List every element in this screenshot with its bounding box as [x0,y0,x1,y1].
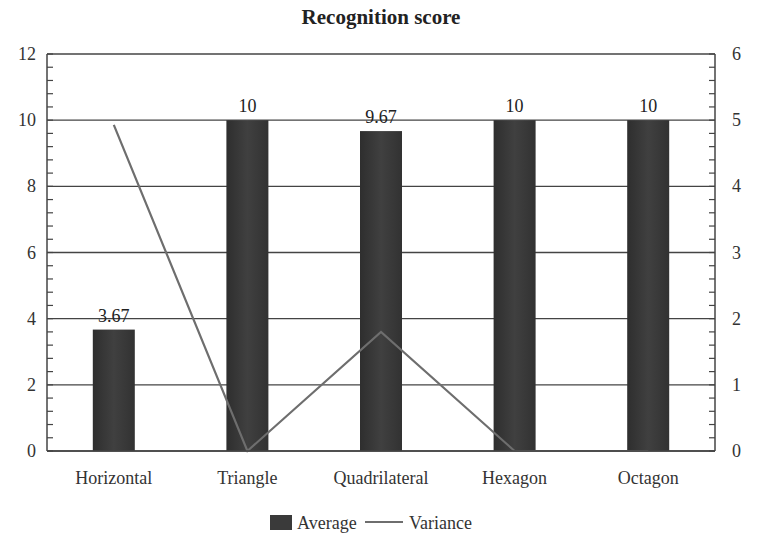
left-tick-label: 12 [18,44,36,64]
bar-value-label: 10 [238,96,256,116]
legend-average-swatch [270,515,292,530]
right-tick-label: 5 [732,110,741,130]
chart: Recognition score 024681012 0123456 Hori… [0,0,760,556]
bar-value-label: 10 [639,96,657,116]
left-tick-label: 0 [27,441,36,461]
legend: Average Variance [270,513,472,533]
bar-value-label: 3.67 [98,306,130,326]
category-label: Horizontal [75,468,152,488]
bar-value-label: 9.67 [365,107,397,127]
right-tick-label: 1 [732,375,741,395]
bar-value-label: 10 [506,96,524,116]
left-tick-label: 2 [27,375,36,395]
bar-octagon [627,120,669,451]
left-tick-label: 6 [27,243,36,263]
category-label: Octagon [618,468,679,488]
bar-triangle [226,120,268,451]
bar-hexagon [494,120,536,451]
category-label: Quadrilateral [334,468,429,488]
chart-title: Recognition score [302,5,461,29]
right-tick-label: 3 [732,243,741,263]
left-tick-label: 8 [27,176,36,196]
category-label: Triangle [217,468,277,488]
right-axis-tick-labels: 0123456 [732,44,741,461]
left-tick-label: 4 [27,309,36,329]
right-tick-label: 4 [732,176,741,196]
right-tick-label: 6 [732,44,741,64]
bar-quadrilateral [360,131,402,451]
left-tick-label: 10 [18,110,36,130]
left-axis-tick-labels: 024681012 [18,44,36,461]
right-tick-label: 2 [732,309,741,329]
category-label: Hexagon [482,468,547,488]
right-tick-label: 0 [732,441,741,461]
bar-horizontal [93,330,135,451]
category-labels: HorizontalTriangleQuadrilateralHexagonOc… [75,468,678,488]
legend-variance-label: Variance [409,513,472,533]
legend-average-label: Average [297,513,357,533]
